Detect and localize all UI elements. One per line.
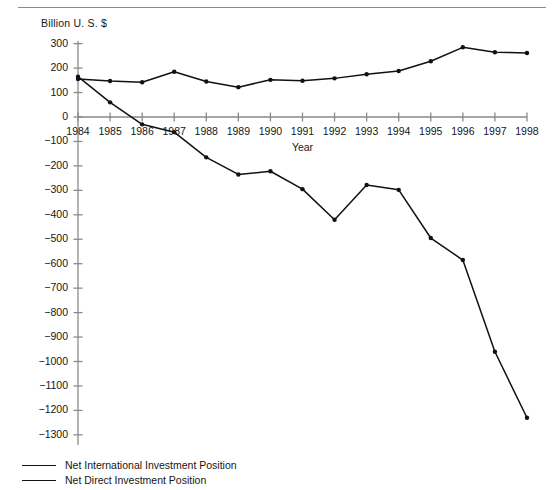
data-point-marker xyxy=(268,169,272,173)
y-axis-tick-label: 100 xyxy=(0,86,68,98)
data-point-marker xyxy=(108,79,112,83)
y-axis-tick-label: −500 xyxy=(0,232,68,244)
y-axis-tick-label: 200 xyxy=(0,61,68,73)
axes-layer xyxy=(74,41,527,445)
data-point-marker xyxy=(397,188,401,192)
data-point-marker xyxy=(397,69,401,73)
y-axis-tick-label: −1300 xyxy=(0,428,68,440)
data-point-marker xyxy=(332,76,336,80)
x-axis-tick-label: 1998 xyxy=(505,125,549,137)
legend-item-net-direct: Net Direct Investment Position xyxy=(22,473,237,488)
y-axis-tick-label: −600 xyxy=(0,257,68,269)
plot-area xyxy=(0,0,557,490)
data-point-marker xyxy=(76,77,80,81)
y-axis-tick-label: −900 xyxy=(0,330,68,342)
y-axis-tick-label: −200 xyxy=(0,159,68,171)
data-point-marker xyxy=(429,59,433,63)
y-axis-tick-label: 0 xyxy=(0,110,68,122)
data-point-marker xyxy=(429,236,433,240)
y-axis-tick-label: −800 xyxy=(0,306,68,318)
y-axis-tick-label: −300 xyxy=(0,183,68,195)
data-point-marker xyxy=(140,80,144,84)
x-axis-title: Year xyxy=(38,141,557,153)
legend-line-swatch-icon xyxy=(22,465,56,466)
data-point-marker xyxy=(300,79,304,83)
data-point-marker xyxy=(364,183,368,187)
data-point-marker xyxy=(236,172,240,176)
legend-label: Net Direct Investment Position xyxy=(65,473,206,488)
data-point-marker xyxy=(493,350,497,354)
y-axis-tick-label: −1200 xyxy=(0,403,68,415)
y-axis-tick-label: 300 xyxy=(0,37,68,49)
data-point-marker xyxy=(268,78,272,82)
legend-line-swatch-icon xyxy=(22,480,56,481)
data-point-marker xyxy=(172,70,176,74)
data-point-marker xyxy=(300,187,304,191)
y-axis-tick-label: −400 xyxy=(0,208,68,220)
chart-legend: Net International Investment Position Ne… xyxy=(22,458,237,488)
data-point-marker xyxy=(525,416,529,420)
legend-item-net-international: Net International Investment Position xyxy=(22,458,237,473)
data-point-marker xyxy=(364,72,368,76)
chart-figure: Billion U. S. $ 3002001000−100−200−300−4… xyxy=(0,0,557,490)
data-point-marker xyxy=(204,79,208,83)
data-point-marker xyxy=(108,100,112,104)
data-point-marker xyxy=(493,50,497,54)
data-point-marker xyxy=(461,45,465,49)
data-point-marker xyxy=(236,85,240,89)
data-point-marker xyxy=(332,217,336,221)
legend-label: Net International Investment Position xyxy=(65,458,237,473)
y-axis-tick-label: −700 xyxy=(0,281,68,293)
y-axis-tick-label: −1000 xyxy=(0,355,68,367)
data-point-marker xyxy=(204,155,208,159)
y-axis-tick-label: −1100 xyxy=(0,379,68,391)
series-layer xyxy=(76,45,529,420)
data-point-marker xyxy=(525,51,529,55)
data-point-marker xyxy=(461,258,465,262)
